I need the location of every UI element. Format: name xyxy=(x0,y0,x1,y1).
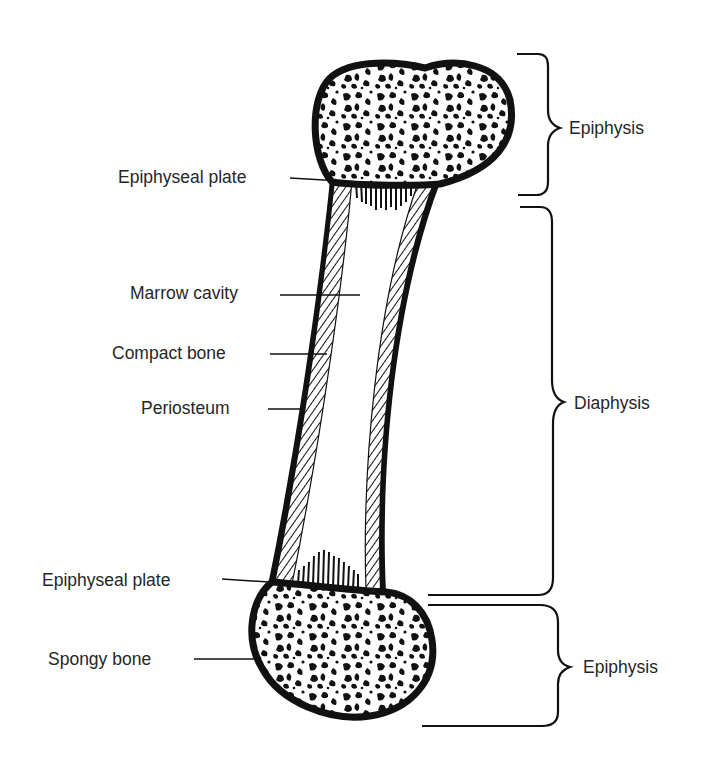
label-spongy-bone: Spongy bone xyxy=(48,649,151,669)
bracket-diaphysis xyxy=(428,207,564,595)
diaphysis-shaft xyxy=(268,180,440,592)
bracket-epiphysis-bottom xyxy=(422,605,570,726)
epiphysis-bottom-head xyxy=(252,582,433,717)
epiphysis-top-head xyxy=(315,63,511,185)
bracket-epiphysis-top xyxy=(517,54,560,195)
label-compact-bone: Compact bone xyxy=(112,343,226,363)
label-epiphyseal-plate-bottom: Epiphyseal plate xyxy=(42,570,170,590)
label-epiphyseal-plate-top: Epiphyseal plate xyxy=(118,167,246,187)
label-diaphysis: Diaphysis xyxy=(574,393,650,413)
label-periosteum: Periosteum xyxy=(141,398,230,418)
label-epiphysis-bottom: Epiphysis xyxy=(583,657,658,677)
label-epiphysis-top: Epiphysis xyxy=(569,118,644,138)
label-marrow-cavity: Marrow cavity xyxy=(130,283,238,303)
